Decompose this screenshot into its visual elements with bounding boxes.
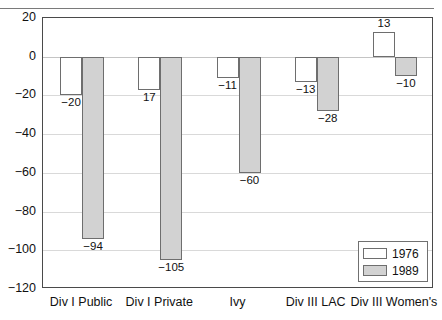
y-tick-label: −20 (0, 88, 36, 101)
bar-1989-div-i-public (82, 57, 104, 239)
bar-1989-div-i-private (160, 57, 182, 260)
legend-item-1989: 1989 (363, 263, 423, 278)
bar-value-label: 13 (364, 18, 404, 30)
bar-value-label: −94 (73, 241, 113, 253)
bar-value-label: −10 (386, 78, 426, 90)
legend: 1976 1989 (358, 241, 428, 282)
y-tick-label: −60 (0, 166, 36, 179)
bar-1976-ivy (217, 57, 239, 78)
bar-value-label: −105 (151, 262, 191, 274)
bar-1976-div-iii-lac (295, 57, 317, 82)
bar-value-label: −60 (230, 175, 270, 187)
y-tick-label: 20 (0, 11, 36, 24)
y-tick-label: −80 (0, 205, 36, 218)
y-tick-label: −120 (0, 282, 36, 295)
y-tick-label: 0 (0, 50, 36, 63)
bar-1976-div-i-private (138, 57, 160, 90)
bar-value-label: −28 (308, 113, 348, 125)
cut-off-title-text (16, 0, 276, 7)
bar-1989-div-iii-women's (395, 57, 417, 76)
bar-1976-div-i-public (60, 57, 82, 96)
legend-label-1989: 1989 (392, 265, 419, 277)
legend-item-1976: 1976 (363, 246, 423, 261)
title-divider-rule (0, 8, 434, 9)
bar-1989-div-iii-lac (317, 57, 339, 111)
bar-1989-ivy (239, 57, 261, 173)
legend-swatch-1989-icon (363, 265, 387, 276)
legend-swatch-1976-icon (363, 248, 387, 259)
y-tick-label: −40 (0, 127, 36, 140)
bar-1976-div-iii-women's (373, 32, 395, 57)
legend-label-1976: 1976 (392, 248, 419, 260)
y-tick-label: −100 (0, 243, 36, 256)
x-tick-label: Div III Women's (339, 296, 442, 309)
